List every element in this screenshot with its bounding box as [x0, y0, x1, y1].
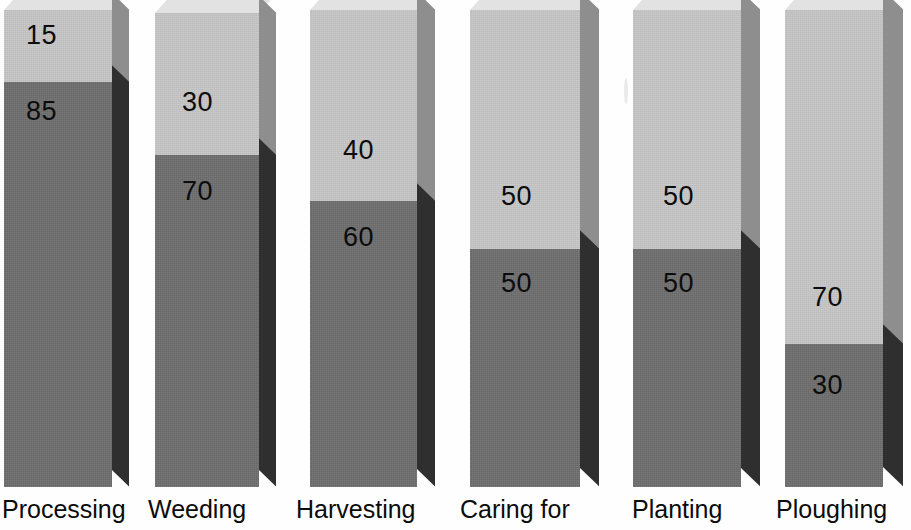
- bar-side-face-upper: [741, 0, 760, 248]
- bar-side-face-upper: [883, 0, 903, 343]
- bar-segment-upper: [4, 10, 112, 82]
- scan-artifact: [624, 78, 628, 104]
- value-label-upper: 70: [812, 284, 843, 311]
- bar-processing: [4, 10, 112, 487]
- stacked-bar-chart: ProcessingWeedingHarvestingCaring forPla…: [0, 0, 911, 530]
- bar-side-face-upper: [417, 0, 435, 200]
- bar-side-face-upper: [259, 0, 276, 154]
- category-label-weeding: Weeding: [148, 497, 246, 522]
- value-label-lower: 85: [26, 98, 57, 125]
- bar-segment-upper: [470, 10, 580, 249]
- value-label-upper: 40: [343, 137, 374, 164]
- bar-caring-for: [470, 10, 580, 487]
- value-label-upper: 15: [26, 22, 57, 49]
- bar-top-face: [633, 0, 758, 10]
- bar-segment-lower: [4, 82, 112, 487]
- bar-top-face: [4, 0, 127, 10]
- bar-side-face-lower: [417, 183, 435, 486]
- bar-side-face-lower: [883, 324, 903, 486]
- bar-segment-upper: [155, 13, 259, 155]
- scan-texture: [4, 82, 112, 487]
- value-label-lower: 70: [182, 178, 213, 205]
- bar-planting: [633, 10, 741, 487]
- scan-texture: [633, 10, 741, 249]
- scan-texture: [310, 10, 417, 201]
- category-label-ploughing: Ploughing: [776, 497, 887, 522]
- bar-side-face-upper: [580, 0, 599, 248]
- value-label-lower: 50: [501, 270, 532, 297]
- bar-front-face: [155, 13, 259, 487]
- category-label-harvesting: Harvesting: [296, 497, 416, 522]
- bar-top-face: [155, 0, 274, 13]
- bar-segment-upper: [310, 10, 417, 201]
- bar-front-face: [4, 10, 112, 487]
- bar-weeding: [155, 13, 259, 487]
- bar-top-face: [310, 0, 433, 10]
- scan-texture: [785, 344, 883, 487]
- scan-texture: [4, 10, 112, 82]
- bar-top-face: [470, 0, 597, 10]
- bar-side-face-lower: [259, 138, 276, 486]
- bar-segment-upper: [633, 10, 741, 249]
- bar-side-face-lower: [580, 230, 599, 486]
- bar-front-face: [470, 10, 580, 487]
- value-label-upper: 30: [182, 89, 213, 116]
- bar-front-face: [785, 10, 883, 487]
- scan-texture: [470, 10, 580, 249]
- value-label-upper: 50: [501, 183, 532, 210]
- value-label-lower: 50: [663, 270, 694, 297]
- category-label-planting: Planting: [632, 497, 722, 522]
- value-label-lower: 60: [343, 224, 374, 251]
- category-label-caring-for: Caring for: [460, 497, 570, 522]
- bar-segment-lower: [785, 344, 883, 487]
- bar-side-face-lower: [741, 230, 760, 486]
- scan-texture: [155, 13, 259, 155]
- bar-ploughing: [785, 10, 883, 487]
- bar-front-face: [633, 10, 741, 487]
- value-label-lower: 30: [812, 372, 843, 399]
- value-label-upper: 50: [663, 183, 694, 210]
- category-label-processing: Processing: [2, 497, 126, 522]
- bar-side-face-lower: [112, 65, 129, 486]
